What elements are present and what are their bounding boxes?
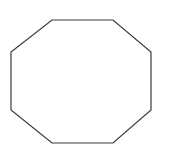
octagon-drawing-canvas xyxy=(0,0,174,156)
canvas-background xyxy=(0,0,174,156)
figure-container xyxy=(0,0,174,156)
